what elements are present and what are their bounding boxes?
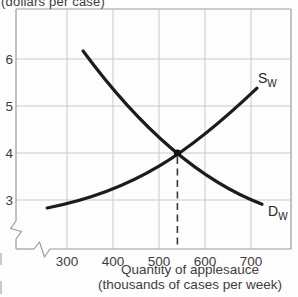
y-tick-label: 5 — [5, 99, 13, 114]
gridlines — [16, 9, 291, 249]
y-tick-label: 6 — [5, 52, 13, 67]
demand-curve-label: DW — [268, 203, 288, 222]
x-axis-caption: Quantity of applesauce (thousands of cas… — [82, 262, 298, 292]
y-axis-break-icon — [11, 221, 22, 239]
supply-demand-chart: 3004005006007003456 SW DW — [0, 0, 298, 297]
x-axis-caption-line1: Quantity of applesauce — [82, 262, 298, 277]
curves-and-equilibrium — [47, 51, 262, 248]
supply-demand-figure: 3004005006007003456 SW DW (dollars per c… — [0, 0, 298, 297]
y-tick-label: 4 — [5, 146, 13, 161]
x-axis-break-icon — [34, 242, 50, 257]
tick-labels: 3004005006007003456 — [5, 52, 262, 269]
y-axis-caption: (dollars per case) — [1, 0, 105, 9]
scan-artifact — [0, 281, 2, 294]
y-tick-label: 3 — [5, 193, 13, 208]
supply-curve-label: SW — [258, 70, 277, 89]
x-tick-label: 300 — [56, 254, 79, 269]
axes — [16, 9, 291, 249]
x-axis-caption-line2: (thousands of cases per week) — [82, 277, 298, 292]
equilibrium-point — [174, 150, 181, 157]
demand-curve — [83, 51, 262, 204]
scan-artifact — [0, 253, 2, 265]
